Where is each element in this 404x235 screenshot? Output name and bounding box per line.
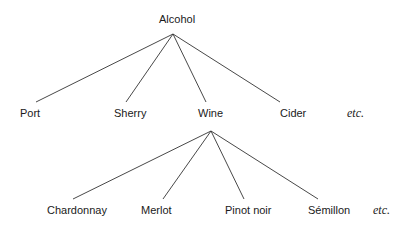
node-port: Port: [20, 107, 40, 120]
node-level2-etc: etc.: [373, 204, 390, 217]
node-chardonnay: Chardonnay: [47, 204, 107, 217]
edge-alcohol-sherry: [126, 34, 173, 102]
node-level1-etc: etc.: [347, 107, 364, 120]
node-wine: Wine: [198, 107, 223, 120]
node-cider: Cider: [280, 107, 306, 120]
node-sherry: Sherry: [114, 107, 146, 120]
edge-alcohol-port: [36, 34, 173, 102]
node-merlot: Merlot: [141, 204, 172, 217]
node-pinot-noir: Pinot noir: [225, 204, 271, 217]
edge-wine-merlot: [163, 131, 211, 199]
node-alcohol: Alcohol: [159, 13, 195, 26]
edge-wine-chardonnay: [73, 131, 211, 199]
node-semillon: Sémillon: [308, 204, 350, 217]
